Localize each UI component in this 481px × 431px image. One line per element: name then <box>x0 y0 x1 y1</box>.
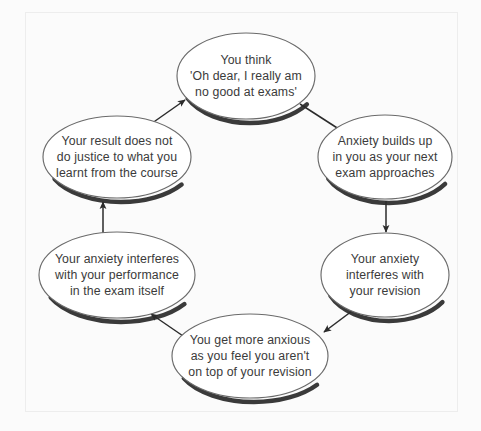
node-label-line: interferes with <box>346 268 424 282</box>
node-label-line: do justice to what you <box>57 150 178 164</box>
node-label-line: Your anxiety interferes <box>55 252 179 266</box>
node-you-think[interactable]: You think 'Oh dear, I really am no good … <box>177 33 315 119</box>
node-label-line: in you as your next <box>332 150 438 164</box>
node-label-line: Your result does not <box>62 134 173 148</box>
arrow-interferes-revision-to-more-anxious <box>324 308 356 332</box>
node-label-line: in the exam itself <box>70 284 165 298</box>
node-label-line: your revision <box>349 284 420 298</box>
node-label-line: as you feel you aren't <box>191 349 310 363</box>
cycle-diagram-canvas: You think 'Oh dear, I really am no good … <box>0 0 481 431</box>
node-interferes-with-revision[interactable]: Your anxiety interferes with your revisi… <box>321 233 449 317</box>
node-label-line: learnt from the course <box>56 166 178 180</box>
node-interferes-with-exam-performance[interactable]: Your anxiety interferes with your perfor… <box>39 232 195 318</box>
node-label-line: Anxiety builds up <box>338 134 433 148</box>
node-result-does-not-do-justice[interactable]: Your result does not do justice to what … <box>43 116 191 198</box>
node-anxiety-builds-up[interactable]: Anxiety builds up in you as your next ex… <box>318 115 452 199</box>
node-label-line: no good at exams' <box>195 85 297 99</box>
node-label-line: exam approaches <box>335 166 434 180</box>
arrow-more-anxious-to-interferes-exam <box>151 314 186 338</box>
node-label-line: You get more anxious <box>190 333 311 347</box>
node-label-line: with your performance <box>54 268 179 282</box>
node-label-line: 'Oh dear, I really am <box>190 69 302 83</box>
node-more-anxious-not-on-top[interactable]: You get more anxious as you feel you are… <box>172 314 328 398</box>
node-label-line: You think <box>220 53 272 67</box>
node-label-line: Your anxiety <box>351 252 420 266</box>
cycle-diagram-figure: You think 'Oh dear, I really am no good … <box>0 0 481 431</box>
node-label-line: on top of your revision <box>188 365 311 379</box>
